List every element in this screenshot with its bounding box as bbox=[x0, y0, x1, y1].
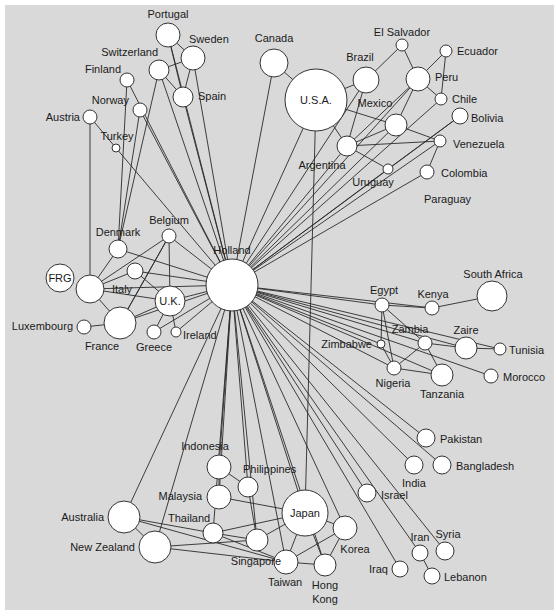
label-morocco: Morocco bbox=[503, 371, 545, 383]
label-layer: HollandU.S.A.CanadaBrazilEl SalvadorEcua… bbox=[12, 8, 545, 605]
node-bangladesh bbox=[433, 456, 451, 474]
edge-holland-colombia bbox=[232, 172, 427, 285]
node-france bbox=[104, 307, 136, 339]
node-sweden bbox=[181, 46, 205, 70]
label-iraq: Iraq bbox=[369, 563, 388, 575]
label-syria: Syria bbox=[435, 528, 461, 540]
node-ireland bbox=[171, 327, 181, 337]
label-norway: Norway bbox=[92, 94, 130, 106]
label-zambia: Zambia bbox=[392, 323, 430, 335]
node-malaysia bbox=[207, 485, 231, 509]
label-peru: Peru bbox=[435, 71, 458, 83]
node-portugal bbox=[156, 23, 180, 47]
node-chile bbox=[435, 93, 447, 105]
label-chile: Chile bbox=[452, 93, 477, 105]
label-egypt: Egypt bbox=[370, 284, 398, 296]
label-holland: Holland bbox=[213, 244, 250, 256]
node-uruguay bbox=[383, 164, 393, 174]
node-peru bbox=[406, 67, 430, 91]
label-venezuela: Venezuela bbox=[453, 138, 505, 150]
label-japan: Japan bbox=[290, 507, 320, 519]
label-frg: FRG bbox=[48, 272, 71, 284]
label-italy: Italy bbox=[112, 283, 133, 295]
label-thailand: Thailand bbox=[168, 512, 210, 524]
label-tanzania: Tanzania bbox=[420, 388, 465, 400]
label-uruguay: Uruguay bbox=[352, 176, 394, 188]
label-indonesia: Indonesia bbox=[181, 440, 230, 452]
label-newzealand: New Zealand bbox=[70, 541, 135, 553]
node-pakistan bbox=[417, 429, 435, 447]
node-hongkong bbox=[314, 554, 336, 576]
label-uk: U.K. bbox=[159, 295, 180, 307]
label-mexico: Mexico bbox=[358, 97, 393, 109]
label-portugal: Portugal bbox=[148, 8, 189, 20]
label-singapore: Singapore bbox=[231, 555, 281, 567]
node-india bbox=[405, 456, 423, 474]
label-switzerland: Switzerland bbox=[101, 46, 158, 58]
node-southafrica bbox=[477, 281, 507, 311]
node-ecuador bbox=[440, 45, 452, 57]
label-zimbabwe: Zimbabwe bbox=[321, 338, 372, 350]
node-lebanon bbox=[424, 568, 440, 584]
edge-holland-morocco bbox=[232, 285, 491, 376]
node-australia bbox=[108, 501, 140, 533]
node-iran bbox=[412, 545, 428, 561]
label-bangladesh: Bangladesh bbox=[456, 460, 514, 472]
node-mexico bbox=[385, 114, 407, 136]
node-bolivia bbox=[452, 108, 468, 124]
label-hongkong: Hong bbox=[312, 579, 338, 591]
label-brazil: Brazil bbox=[346, 51, 374, 63]
label-hongkong-line2: Kong bbox=[312, 593, 338, 605]
node-italy bbox=[127, 263, 143, 279]
label-usa: U.S.A. bbox=[300, 94, 332, 106]
label-kenya: Kenya bbox=[417, 288, 449, 300]
label-sweden: Sweden bbox=[189, 33, 229, 45]
node-thailand bbox=[203, 523, 223, 543]
node-egypt bbox=[375, 298, 389, 312]
node-canada bbox=[260, 49, 288, 77]
node-layer bbox=[46, 23, 507, 584]
label-austria: Austria bbox=[46, 111, 81, 123]
label-taiwan: Taiwan bbox=[268, 576, 302, 588]
edge-holland-chile bbox=[232, 99, 441, 285]
label-ecuador: Ecuador bbox=[457, 45, 498, 57]
label-pakistan: Pakistan bbox=[440, 433, 482, 445]
label-malaysia: Malaysia bbox=[159, 490, 203, 502]
label-zaire: Zaire bbox=[453, 324, 478, 336]
node-philippines bbox=[238, 477, 258, 497]
label-india: India bbox=[402, 477, 427, 489]
node-argentina bbox=[337, 136, 357, 156]
edge-holland-bangladesh bbox=[232, 285, 442, 465]
label-france: France bbox=[85, 340, 119, 352]
node-holland bbox=[206, 259, 258, 311]
label-denmark: Denmark bbox=[96, 226, 141, 238]
label-southafrica: South Africa bbox=[463, 268, 523, 280]
node-indonesia bbox=[207, 455, 231, 479]
node-greece bbox=[147, 325, 161, 339]
label-belgium: Belgium bbox=[149, 214, 189, 226]
node-zambia bbox=[418, 336, 432, 350]
label-greece: Greece bbox=[136, 341, 172, 353]
node-newzealand bbox=[139, 531, 171, 563]
node-syria bbox=[436, 542, 454, 560]
edge-holland-mexico bbox=[232, 125, 396, 285]
node-denmark bbox=[109, 240, 127, 258]
label-philippines: Philippines bbox=[243, 463, 297, 475]
node-zimbabwe bbox=[377, 340, 385, 348]
edge-holland-norway bbox=[140, 110, 232, 285]
label-turkey: Turkey bbox=[100, 130, 134, 142]
label-argentina: Argentina bbox=[298, 159, 346, 171]
label-korea: Korea bbox=[340, 543, 370, 555]
node-turkey bbox=[112, 144, 120, 152]
node-colombia bbox=[420, 165, 434, 179]
node-kenya bbox=[425, 301, 439, 315]
node-austria bbox=[83, 110, 97, 124]
node-elsalvador bbox=[396, 39, 408, 51]
node-germany bbox=[76, 275, 104, 303]
label-israel: Israel bbox=[381, 489, 408, 501]
label-tunisia: Tunisia bbox=[509, 344, 545, 356]
label-iran: Iran bbox=[411, 531, 430, 543]
edge-holland-australia bbox=[124, 285, 232, 517]
label-finland: Finland bbox=[85, 63, 121, 75]
node-spain bbox=[173, 87, 193, 107]
